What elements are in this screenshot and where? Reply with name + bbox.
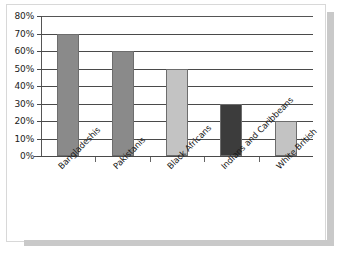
figure-shadow-right — [327, 12, 334, 244]
y-axis-tick — [37, 16, 42, 17]
x-axis-tick — [150, 157, 151, 162]
y-axis-tick — [37, 86, 42, 87]
plot-top-border — [41, 16, 313, 17]
gridline — [42, 51, 313, 52]
figure-caption — [10, 259, 310, 266]
bar — [112, 51, 134, 156]
x-axis-tick — [95, 157, 96, 162]
gridline — [42, 34, 313, 35]
y-axis-tick-label: 30% — [1, 100, 34, 109]
y-axis-tick-label: 40% — [1, 82, 34, 91]
y-axis-tick — [37, 156, 42, 157]
y-axis-tick-label: 60% — [1, 47, 34, 56]
y-axis-tick — [37, 51, 42, 52]
y-axis-tick — [37, 69, 42, 70]
y-axis-tick-label: 20% — [1, 117, 34, 126]
y-axis-tick — [37, 139, 42, 140]
y-axis-labels: 0%10%20%30%40%50%60%70%80% — [0, 0, 34, 266]
figure-shadow-bottom — [24, 240, 334, 246]
y-axis-tick-label: 50% — [1, 65, 34, 74]
bar — [57, 34, 79, 156]
y-axis-tick — [37, 104, 42, 105]
x-axis-tick — [259, 157, 260, 162]
x-axis-tick — [204, 157, 205, 162]
y-axis-tick-label: 80% — [1, 12, 34, 21]
y-axis-tick — [37, 34, 42, 35]
y-axis-tick-label: 10% — [1, 135, 34, 144]
y-axis-tick-label: 0% — [1, 152, 34, 161]
y-axis-tick-label: 70% — [1, 30, 34, 39]
y-axis-tick — [37, 121, 42, 122]
